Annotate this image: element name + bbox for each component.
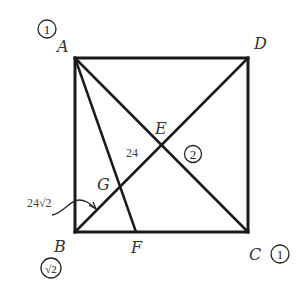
geometry-diagram: A D B C E F G 24 24√2 1 2 1 √2 [0, 0, 303, 303]
label-F: F [130, 238, 143, 257]
circled-1-A: 1 [38, 20, 56, 38]
label-E: E [154, 119, 167, 138]
length-EG: 24 [126, 146, 138, 160]
label-G: G [97, 175, 110, 194]
svg-text:2: 2 [190, 147, 197, 162]
length-BG: 24√2 [27, 196, 52, 210]
svg-text:√2: √2 [45, 263, 57, 275]
label-B: B [53, 237, 66, 256]
label-D: D [253, 34, 267, 53]
circled-1-C: 1 [271, 245, 289, 263]
circled-2-E: 2 [185, 146, 202, 163]
segment-AF [75, 58, 136, 232]
circled-sqrt2-B: √2 [41, 258, 61, 278]
svg-text:1: 1 [277, 247, 284, 262]
svg-text:1: 1 [44, 22, 51, 37]
label-C: C [249, 245, 261, 264]
label-A: A [55, 37, 69, 56]
